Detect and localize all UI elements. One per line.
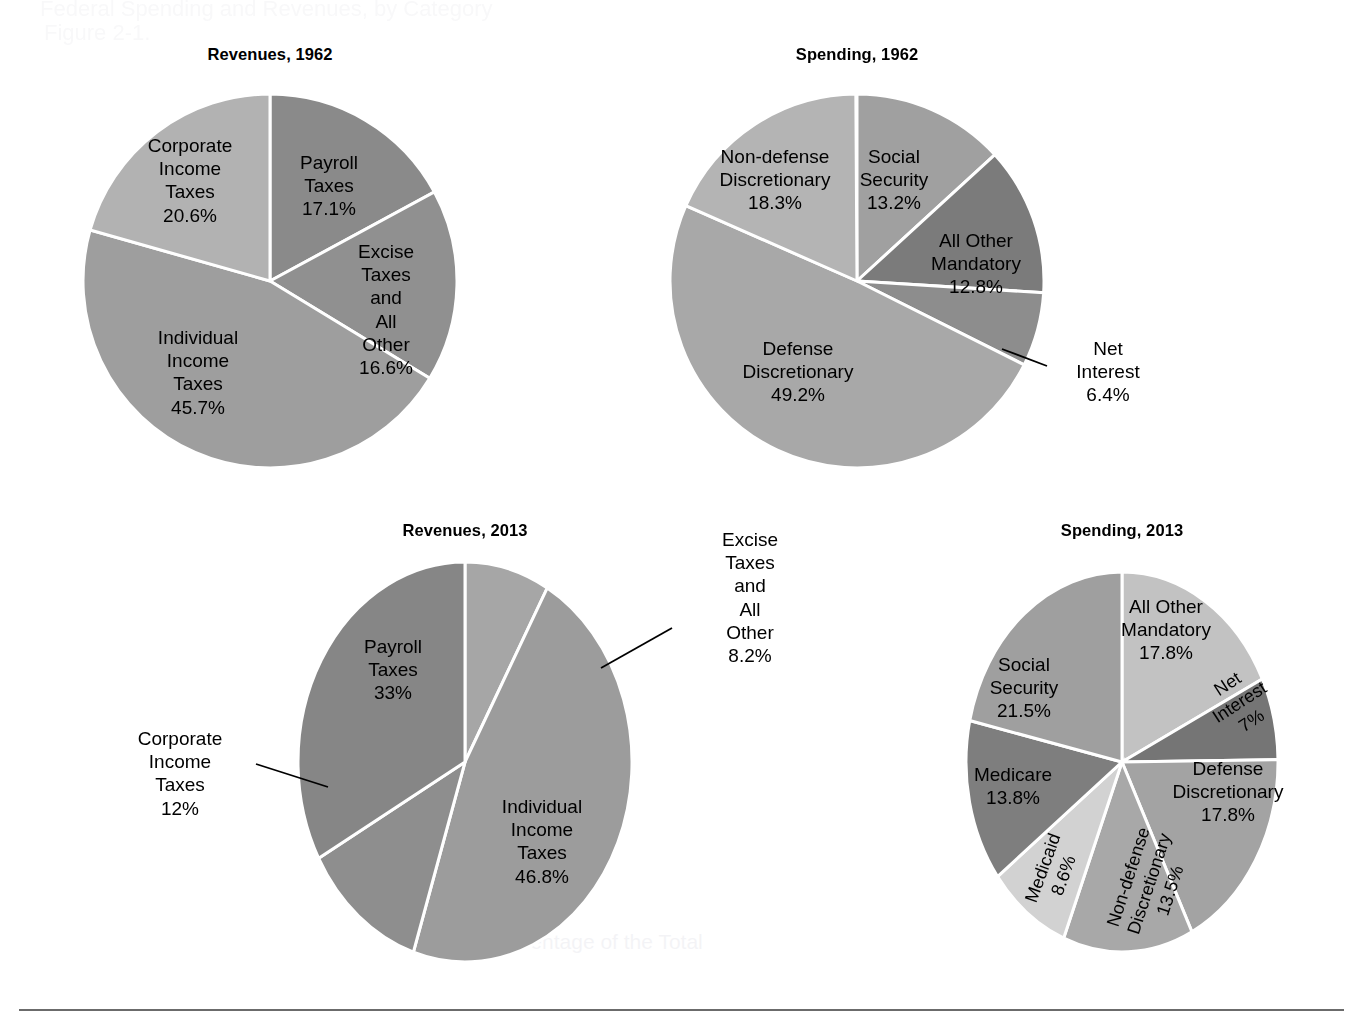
footer-divider (19, 1009, 1344, 1011)
pie-spending-2013 (0, 0, 1363, 1024)
pie-slices-spending-2013 (966, 572, 1278, 952)
figure-panel: Federal Spending and Revenues, by Catego… (0, 0, 1363, 1024)
